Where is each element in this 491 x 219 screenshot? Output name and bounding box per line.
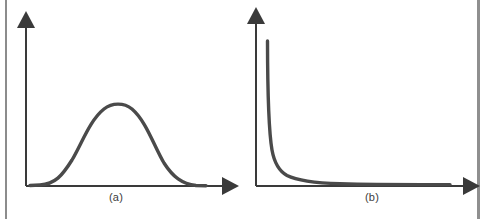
chart-b-caption: (b) [256,191,488,203]
subfigure-b: (b) [240,0,491,219]
chart-a-curve-bell-curve [30,104,206,186]
subfigure-a: (a) [0,0,246,219]
chart-b-plot [240,0,491,219]
chart-a-plot [0,0,246,219]
chart-b-curve-power-law-decay [268,41,451,185]
chart-a-caption: (a) [0,191,232,203]
figure-panel: (a) (b) [0,0,491,219]
